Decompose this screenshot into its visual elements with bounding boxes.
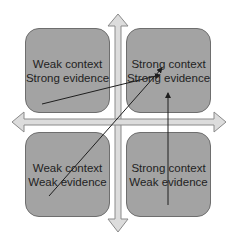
quadrant-label-line1: Weak context: [33, 161, 102, 175]
quadrant-strong-context-strong-evidence: Strong context Strong evidence: [126, 28, 211, 113]
quadrant-label-line2: Strong evidence: [26, 71, 109, 85]
vertical-axis-arrow-icon: [108, 14, 128, 232]
quadrant-label-line1: Weak context: [33, 57, 102, 71]
quadrant-label-line1: Strong context: [131, 57, 205, 71]
quadrant-diagram: Weak context Strong evidence Strong cont…: [0, 0, 237, 244]
quadrant-strong-context-weak-evidence: Strong context Weak evidence: [126, 132, 211, 217]
horizontal-axis-arrow-icon: [12, 112, 226, 132]
quadrant-weak-context-weak-evidence: Weak context Weak evidence: [25, 132, 110, 217]
quadrant-label-line2: Weak evidence: [28, 175, 106, 189]
quadrant-label-line1: Strong context: [131, 161, 205, 175]
quadrant-label-line2: Strong evidence: [127, 71, 210, 85]
quadrant-label-line2: Weak evidence: [129, 175, 207, 189]
quadrant-weak-context-strong-evidence: Weak context Strong evidence: [25, 28, 110, 113]
